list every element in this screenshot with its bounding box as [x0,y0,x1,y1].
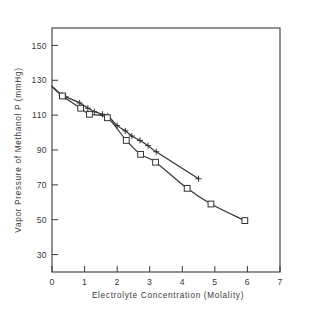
data-point-square [208,201,214,207]
data-point-square [78,105,84,111]
y-tick-label: 150 [31,41,47,51]
x-axis-ticks [52,266,280,272]
y-axis-ticks [52,45,58,254]
series-upper-curve-plus [52,86,202,181]
x-axis-tick-labels: 01234567 [49,277,282,287]
y-tick-label: 90 [37,145,47,155]
vapor-pressure-chart: 01234567 30507090110130150 Electrolyte C… [0,0,318,313]
data-point-square [104,115,110,121]
x-tick-label: 6 [245,277,250,287]
data-point-square [138,151,144,157]
data-series-group [52,86,248,223]
x-tick-label: 4 [180,277,185,287]
y-tick-label: 110 [32,110,47,120]
data-point-square [153,159,159,165]
y-tick-label: 50 [37,215,47,225]
y-axis-tick-labels: 30507090110130150 [31,41,47,260]
data-point-square [87,111,93,117]
x-tick-label: 7 [277,277,282,287]
y-tick-label: 130 [31,75,47,85]
x-tick-label: 1 [82,277,87,287]
plot-frame [52,28,280,272]
y-axis-label: Vapor Pressure of Methanol P (mmHg) [14,67,23,232]
x-tick-label: 2 [115,277,120,287]
data-point-square [184,185,190,191]
data-point-square [123,138,129,144]
axes-box [52,28,280,272]
figure-container: 01234567 30507090110130150 Electrolyte C… [0,0,318,313]
y-tick-label: 30 [37,250,47,260]
data-point-square [242,218,248,224]
x-tick-label: 5 [212,277,217,287]
x-tick-label: 0 [49,277,54,287]
data-point-square [60,93,66,99]
x-axis-label: Electrolyte Concentration (Molality) [92,291,244,300]
x-tick-label: 3 [147,277,152,287]
series-lower-curve-square [52,86,248,223]
y-tick-label: 70 [37,180,47,190]
